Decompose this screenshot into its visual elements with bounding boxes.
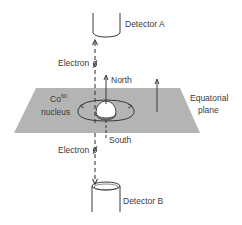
plane-label-line1: Equatorial bbox=[190, 94, 228, 103]
electron-icon-bottom bbox=[93, 146, 97, 154]
electron-path-down bbox=[93, 133, 98, 184]
plane-label-line2: plane bbox=[198, 106, 219, 115]
electron-top-label: Electron bbox=[58, 59, 89, 68]
detector-a-label: Detector A bbox=[125, 20, 165, 29]
south-label: South bbox=[109, 136, 131, 145]
north-label: North bbox=[111, 76, 132, 85]
detector-b bbox=[92, 182, 120, 212]
electron-icon-top bbox=[93, 60, 97, 68]
nucleus-symbol-label: Co60 bbox=[50, 95, 67, 104]
detector-b-label: Detector B bbox=[123, 197, 163, 206]
electron-bottom-label: Electron bbox=[58, 146, 89, 155]
detector-a bbox=[93, 13, 120, 37]
nucleus-word-label: nucleus bbox=[41, 108, 70, 117]
